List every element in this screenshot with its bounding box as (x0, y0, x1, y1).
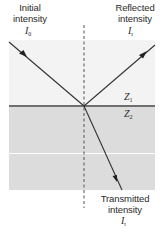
medium-2-label: Z2 (124, 108, 133, 120)
transmitted-arrow-icon (113, 175, 118, 182)
reflected-label: Reflected intensity (107, 3, 162, 24)
incident-label: Initial intensity (8, 3, 52, 24)
medium-1-label: Z1 (124, 91, 133, 103)
transmitted-symbol: It (121, 215, 126, 227)
reflected-symbol: Ir (128, 25, 133, 37)
transmitted-label: Transmitted intensity (94, 194, 156, 215)
incident-ray (9, 42, 84, 106)
incident-symbol: I0 (25, 25, 31, 37)
